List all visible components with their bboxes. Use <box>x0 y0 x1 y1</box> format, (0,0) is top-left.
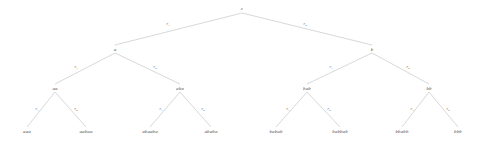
tree-edge-root-to-a <box>115 13 242 45</box>
tree-edge-bab-to-babab <box>276 92 307 127</box>
edge-line-group <box>27 13 458 127</box>
tree-edge-a-to-aba <box>115 53 180 84</box>
tree-edge-bb-to-bbb <box>429 92 458 127</box>
tree-edge-b-to-bb <box>372 53 429 84</box>
tree-edge-root-to-b <box>242 13 372 45</box>
derivation-tree-figure: εabaaabababbbaaaaabaaabaabaabababababbab… <box>0 0 487 143</box>
tree-edge-bb-to-bbabb <box>402 92 429 127</box>
tree-edge-aa-to-aabaa <box>55 92 86 127</box>
tree-edge-bab-to-babbab <box>307 92 340 127</box>
tree-edge-aa-to-aaa <box>27 92 55 127</box>
tree-edge-a-to-aa <box>55 53 115 84</box>
tree-edge-aba-to-ababa <box>180 92 211 127</box>
tree-edges-canvas <box>0 0 487 143</box>
tree-edge-b-to-bab <box>307 53 372 84</box>
tree-edge-aba-to-abaaba <box>150 92 180 127</box>
